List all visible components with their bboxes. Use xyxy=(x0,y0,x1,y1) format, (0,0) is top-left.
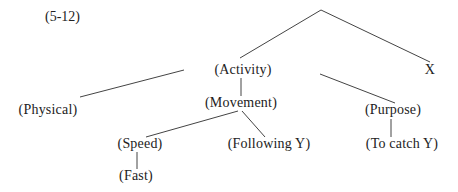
edge-movement-speed xyxy=(146,111,238,137)
edge-root-activity xyxy=(240,10,321,58)
node-speed: (Speed) xyxy=(118,136,163,152)
node-movement: (Movement) xyxy=(205,95,277,111)
node-fast: (Fast) xyxy=(119,168,153,184)
node-physical: (Physical) xyxy=(19,102,78,118)
node-activity: (Activity) xyxy=(214,62,271,78)
node-to-catch-y: (To catch Y) xyxy=(366,136,438,152)
figure-number: (5-12) xyxy=(45,9,80,25)
edge-activity-purpose xyxy=(320,74,395,103)
edge-activity-physical xyxy=(80,70,184,97)
node-following-y: (Following Y) xyxy=(228,136,311,152)
node-purpose: (Purpose) xyxy=(365,102,421,118)
edge-movement-following xyxy=(242,111,265,137)
edge-root-x xyxy=(321,10,430,62)
node-x: X xyxy=(425,62,435,78)
